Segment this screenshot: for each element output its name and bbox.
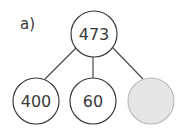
child-value-2: 60: [83, 92, 103, 111]
question-label: a): [20, 15, 35, 33]
child-node-3-empty[interactable]: [128, 78, 174, 124]
child-node-2: 60: [70, 78, 116, 124]
root-node: 473: [71, 11, 117, 57]
part-whole-diagram: a) 473 400 60: [0, 0, 184, 132]
child-value-1: 400: [21, 92, 52, 111]
child-node-1: 400: [13, 78, 59, 124]
connector-left: [45, 48, 76, 79]
connector-right: [113, 48, 143, 79]
root-value: 473: [79, 25, 110, 44]
